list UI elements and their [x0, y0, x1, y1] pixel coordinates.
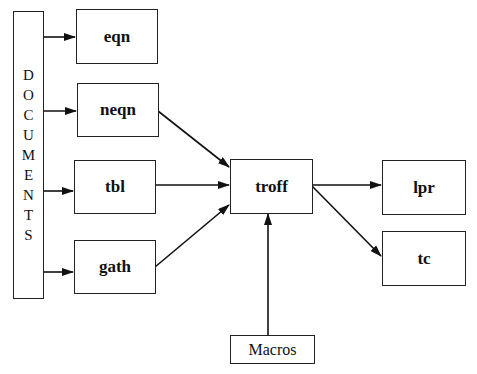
documents-letter: O — [23, 85, 34, 105]
documents-letter: E — [24, 165, 33, 185]
tbl-label: tbl — [105, 177, 125, 197]
lpr-box: lpr — [382, 160, 466, 215]
documents-letter: N — [23, 185, 34, 205]
documents-letter: U — [23, 125, 34, 145]
eqn-label: eqn — [104, 27, 130, 47]
macros-box: Macros — [230, 335, 315, 364]
troff-box: troff — [230, 159, 313, 214]
troff-label: troff — [255, 177, 288, 197]
neqn-box: neqn — [77, 83, 159, 137]
arrow-troff-to-tc — [312, 186, 381, 256]
tc-box: tc — [382, 231, 466, 286]
tc-label: tc — [417, 249, 430, 269]
macros-label: Macros — [249, 341, 297, 359]
documents-letter: C — [23, 105, 33, 125]
documents-letter: D — [23, 65, 34, 85]
neqn-label: neqn — [100, 100, 136, 120]
gath-label: gath — [99, 257, 131, 277]
eqn-box: eqn — [76, 9, 158, 64]
arrow-neqn-to-troff — [158, 111, 229, 167]
documents-letter: M — [22, 145, 35, 165]
lpr-label: lpr — [413, 178, 435, 198]
tbl-box: tbl — [74, 160, 156, 214]
arrow-gath-to-troff — [155, 205, 229, 267]
documents-letter: T — [24, 205, 33, 225]
documents-box: D O C U M E N T S — [13, 11, 44, 299]
documents-letter: S — [24, 225, 32, 245]
gath-box: gath — [74, 240, 156, 294]
